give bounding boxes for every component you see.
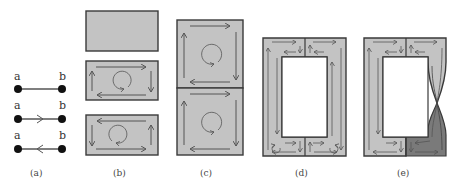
- panel-c: (c): [177, 20, 243, 178]
- face-unoriented: [86, 11, 158, 51]
- vertex-label-a: a: [14, 70, 21, 83]
- face-bottom: [177, 88, 243, 155]
- figure: a b a b a b (a): [0, 0, 460, 185]
- face-counterclockwise: [86, 115, 158, 155]
- vertex-b: [58, 85, 66, 93]
- edge-forward: a b: [14, 99, 66, 123]
- panel-label-c: (c): [200, 168, 212, 178]
- panel-b: (b): [86, 11, 158, 178]
- vertex-b: [58, 145, 66, 153]
- panel-label-b: (b): [113, 168, 126, 178]
- vertex-label-a: a: [14, 99, 21, 112]
- vertex-b: [58, 115, 66, 123]
- vertex-a: [14, 85, 22, 93]
- panel-a: a b a b a b (a): [14, 70, 66, 178]
- face-clockwise: [86, 61, 158, 100]
- annulus-hole: [383, 57, 428, 137]
- vertex-label-b: b: [59, 99, 66, 112]
- panel-label-a: (a): [30, 168, 42, 178]
- vertex-label-a: a: [14, 129, 21, 142]
- panel-d: (d): [263, 38, 346, 178]
- face-top: [177, 20, 243, 88]
- vertex-label-b: b: [59, 70, 66, 83]
- vertex-a: [14, 115, 22, 123]
- vertex-label-b: b: [59, 129, 66, 142]
- vertex-a: [14, 145, 22, 153]
- panel-label-d: (d): [295, 168, 308, 178]
- panel-e: (e): [364, 38, 446, 178]
- panel-label-e: (e): [397, 168, 409, 178]
- edge-undirected: a b: [14, 70, 66, 93]
- edge-backward: a b: [14, 129, 66, 153]
- annulus-hole: [282, 57, 327, 137]
